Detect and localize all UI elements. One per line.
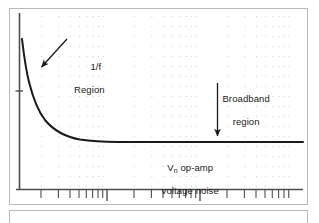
broadband-label: Broadband region [206,82,270,138]
broadband-label-line1: Broadband [222,93,269,104]
caption-box [9,210,308,223]
noise-floor-label-subscript: n [174,167,178,174]
one-over-f-label: 1/f Region [74,50,105,117]
noise-floor-label: Vn op-amp voltage noise [127,151,237,201]
noise-floor-label-line1-rest: op-amp [178,162,214,173]
noise-floor-label-line2: voltage noise [162,185,219,196]
broadband-label-line2: region [233,116,260,127]
one-over-f-label-line2: Region [74,84,105,95]
noise-floor-label-symbol: V [167,162,173,173]
one-over-f-arrow [42,39,68,67]
plot-area: 1/f Region Broadband region Vn op-amp vo… [14,12,304,201]
noise-spectrum-figure: 1/f Region Broadband region Vn op-amp vo… [0,0,319,223]
one-over-f-label-line1: 1/f [90,61,101,72]
